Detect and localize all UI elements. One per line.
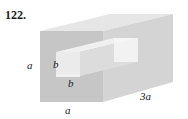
- label-width-a: a: [65, 104, 71, 116]
- label-hole-b-horizontal: b: [68, 77, 74, 89]
- hole-opening: [56, 52, 80, 76]
- hole-exit: [114, 38, 138, 62]
- label-hole-b-vertical: b: [53, 58, 59, 70]
- label-height-a: a: [27, 59, 33, 71]
- label-length-3a: 3a: [140, 90, 151, 102]
